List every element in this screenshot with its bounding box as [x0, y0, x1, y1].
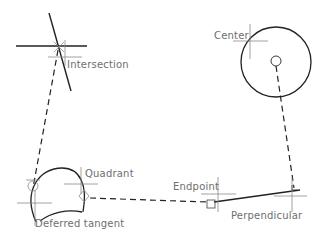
label-quadrant: Quadrant — [85, 169, 134, 179]
label-intersection: Intersection — [67, 60, 129, 70]
snap-diagram — [0, 0, 323, 239]
arc-curve — [31, 168, 84, 222]
label-deferred-tangent: Deferred tangent — [35, 219, 124, 229]
center-geometry — [241, 27, 311, 97]
dashed-tracking-line — [33, 50, 58, 188]
label-perpendicular: Perpendicular — [231, 211, 302, 221]
dashed-tracking-line — [276, 66, 294, 188]
intersection-geometry — [16, 13, 87, 91]
perpendicular-marker — [274, 178, 307, 212]
dashed-tracking-line — [90, 198, 207, 202]
label-center: Center — [214, 31, 249, 41]
label-endpoint: Endpoint — [173, 182, 219, 192]
